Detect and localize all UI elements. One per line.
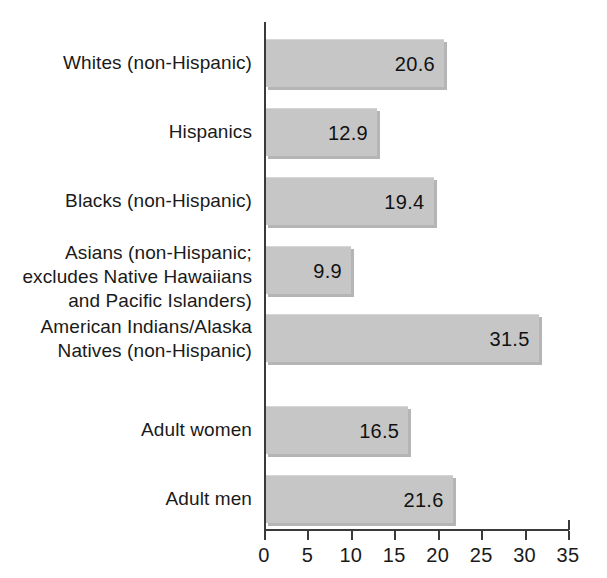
bar: 12.9 (265, 108, 377, 156)
x-tick-mark (264, 531, 266, 540)
x-tick-mark-end (264, 520, 266, 530)
x-tick-mark (307, 531, 309, 540)
bar-value-label: 12.9 (328, 122, 368, 144)
x-tick-mark (525, 531, 527, 540)
bar-chart: 20.612.919.49.931.516.521.6 Whites (non-… (0, 0, 607, 578)
x-tick-mark (351, 531, 353, 540)
bar-value-label: 20.6 (395, 53, 435, 75)
bar-value-label: 9.9 (313, 260, 342, 282)
category-label-line: Natives (non-Hispanic) (0, 339, 252, 363)
bar: 9.9 (265, 246, 351, 294)
x-tick-label: 30 (505, 543, 545, 567)
x-tick-mark (438, 531, 440, 540)
bar-value-label: 19.4 (384, 191, 424, 213)
category-label: Asians (non-Hispanic;excludes Native Haw… (0, 241, 252, 313)
category-label-line: Asians (non-Hispanic; (0, 241, 252, 265)
category-label: American Indians/AlaskaNatives (non-Hisp… (0, 315, 252, 363)
category-label-line: American Indians/Alaska (0, 315, 252, 339)
x-tick-label: 10 (331, 543, 371, 567)
bar: 31.5 (265, 314, 539, 362)
x-tick-label: 0 (244, 543, 284, 567)
x-tick-mark-end (568, 520, 570, 530)
category-label: Hispanics (0, 120, 252, 144)
bar-value-label: 31.5 (489, 328, 529, 350)
x-axis-line (264, 529, 569, 531)
category-label-line: Adult men (0, 487, 252, 511)
bar-value-label: 16.5 (359, 420, 399, 442)
category-label-line: Whites (non-Hispanic) (0, 51, 252, 75)
x-tick-mark (568, 531, 570, 540)
category-label-line: and Pacific Islanders) (0, 289, 252, 313)
x-tick-label: 15 (374, 543, 414, 567)
bar: 21.6 (265, 475, 453, 523)
x-tick-label: 25 (461, 543, 501, 567)
category-label-line: Hispanics (0, 120, 252, 144)
bar: 16.5 (265, 406, 408, 454)
x-tick-mark (481, 531, 483, 540)
category-label: Whites (non-Hispanic) (0, 51, 252, 75)
bar-value-label: 21.6 (403, 489, 443, 511)
category-label: Blacks (non-Hispanic) (0, 189, 252, 213)
x-tick-mark (394, 531, 396, 540)
bar: 20.6 (265, 39, 444, 87)
category-label-line: excludes Native Hawaiians (0, 265, 252, 289)
category-label: Adult women (0, 418, 252, 442)
category-label: Adult men (0, 487, 252, 511)
x-tick-label: 35 (548, 543, 588, 567)
category-label-line: Adult women (0, 418, 252, 442)
bar: 19.4 (265, 177, 434, 225)
category-label-line: Blacks (non-Hispanic) (0, 189, 252, 213)
y-axis-line (264, 22, 266, 530)
x-tick-label: 5 (287, 543, 327, 567)
x-tick-label: 20 (418, 543, 458, 567)
